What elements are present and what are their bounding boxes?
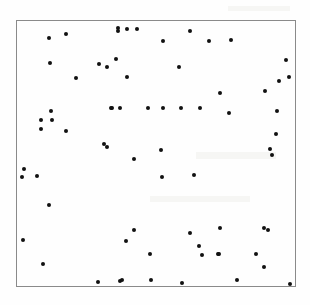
data-point — [207, 39, 211, 43]
data-point — [96, 280, 100, 284]
data-point — [198, 106, 202, 110]
data-point — [200, 253, 204, 257]
data-point — [180, 281, 184, 285]
data-point — [39, 127, 43, 131]
data-point — [114, 57, 118, 61]
data-point — [21, 238, 25, 242]
data-point — [217, 252, 221, 256]
data-point — [218, 91, 222, 95]
data-point — [146, 106, 150, 110]
data-point — [149, 278, 153, 282]
data-point — [49, 109, 53, 113]
scatter-plot-figure — [0, 0, 310, 305]
data-point — [274, 132, 278, 136]
data-point — [132, 228, 136, 232]
data-point — [254, 252, 258, 256]
data-point — [74, 76, 78, 80]
data-point — [268, 147, 272, 151]
data-point — [64, 129, 68, 133]
data-point — [20, 175, 24, 179]
data-point — [266, 228, 270, 232]
data-point — [160, 175, 164, 179]
data-point — [229, 38, 233, 42]
data-point — [235, 278, 239, 282]
data-point — [179, 106, 183, 110]
data-point — [47, 203, 51, 207]
data-point — [197, 244, 201, 248]
data-point — [263, 89, 267, 93]
data-point — [218, 226, 222, 230]
data-point — [270, 153, 274, 157]
data-point — [188, 231, 192, 235]
data-point — [39, 118, 43, 122]
data-point — [159, 148, 163, 152]
plot-frame — [16, 20, 296, 287]
data-point — [47, 36, 51, 40]
data-point — [287, 75, 291, 79]
data-point — [277, 79, 281, 83]
data-point — [22, 167, 26, 171]
data-point — [125, 75, 129, 79]
data-point — [132, 157, 136, 161]
data-point — [48, 61, 52, 65]
data-point — [124, 239, 128, 243]
data-point — [161, 39, 165, 43]
data-points-layer — [17, 21, 295, 286]
data-point — [110, 106, 114, 110]
data-point — [161, 106, 165, 110]
data-point — [64, 32, 68, 36]
data-point — [35, 174, 39, 178]
data-point — [192, 173, 196, 177]
data-point — [97, 62, 101, 66]
data-point — [118, 106, 122, 110]
data-point — [288, 282, 292, 286]
data-point — [116, 29, 120, 33]
data-point — [188, 29, 192, 33]
data-point — [41, 262, 45, 266]
data-point — [262, 265, 266, 269]
data-point — [105, 145, 109, 149]
data-point — [177, 65, 181, 69]
data-point — [275, 109, 279, 113]
data-point — [284, 58, 288, 62]
data-point — [50, 118, 54, 122]
data-point — [135, 27, 139, 31]
data-point — [120, 278, 124, 282]
data-point — [125, 27, 129, 31]
data-point — [148, 252, 152, 256]
data-point — [105, 65, 109, 69]
data-point — [227, 111, 231, 115]
paper-artifact — [228, 6, 290, 11]
